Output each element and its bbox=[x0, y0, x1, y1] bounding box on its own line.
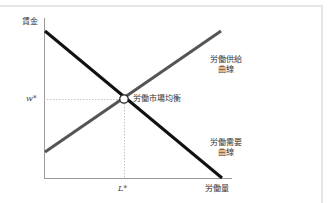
labor-equilibrium-label: L* bbox=[118, 184, 127, 194]
equilibrium-label: 労働市場均衡 bbox=[133, 94, 181, 104]
wage-equilibrium-label: w* bbox=[26, 94, 37, 104]
supply-curve bbox=[45, 31, 221, 152]
x-axis-label: 労働量 bbox=[205, 184, 229, 194]
supply-curve-label-line1: 労働供給 bbox=[208, 55, 244, 65]
equilibrium-point bbox=[120, 95, 128, 103]
labor-market-diagram: 賃金 w* 労働市場均衡 労働供給 曲線 労働需要 曲線 L* 労働量 bbox=[0, 0, 331, 203]
y-axis-label: 賃金 bbox=[22, 17, 38, 27]
supply-curve-label: 労働供給 曲線 bbox=[208, 55, 244, 75]
supply-curve-label-line2: 曲線 bbox=[208, 65, 244, 75]
demand-curve bbox=[45, 31, 222, 178]
demand-curve-label-line1: 労働需要 bbox=[208, 138, 244, 148]
demand-curve-label: 労働需要 曲線 bbox=[208, 138, 244, 158]
demand-curve-label-line2: 曲線 bbox=[208, 148, 244, 158]
